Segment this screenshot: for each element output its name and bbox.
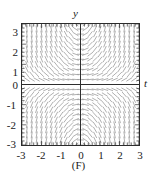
slope-mark [117, 72, 122, 77]
slope-mark [107, 97, 112, 102]
slope-mark [102, 67, 107, 72]
slope-mark [64, 122, 68, 128]
slope-mark [93, 107, 98, 112]
slope-mark [112, 92, 117, 97]
slope-mark [59, 57, 63, 62]
slope-mark [63, 107, 68, 112]
slope-mark [68, 127, 73, 132]
slope-mark [102, 97, 107, 102]
slope-mark [93, 122, 97, 128]
slope-mark [103, 62, 107, 67]
slope-mark [59, 62, 64, 67]
slope-mark [69, 26, 73, 32]
slope-mark [30, 72, 34, 77]
slope-mark [39, 72, 44, 77]
slope-mark [127, 72, 131, 77]
slope-mark [122, 92, 127, 97]
slope-mark [68, 122, 73, 127]
slope-mark [88, 142, 92, 145]
y-tick-label-neg-3: -3 [0, 139, 16, 150]
slope-mark [127, 92, 131, 97]
slope-mark [64, 52, 69, 57]
slope-mark [93, 52, 98, 57]
axis-line-group [22, 24, 139, 145]
slope-mark [93, 112, 98, 117]
slope-mark [93, 46, 97, 51]
slope-mark [44, 72, 49, 77]
slope-mark [69, 132, 73, 137]
slope-mark [54, 102, 58, 107]
slope-mark [54, 62, 58, 67]
y-tick-label-0: 0 [2, 80, 18, 91]
figure-caption: (F) [0, 160, 157, 171]
slope-mark [34, 92, 39, 97]
slope-mark [98, 62, 103, 67]
slope-mark [44, 92, 49, 97]
slope-mark [54, 97, 59, 102]
slope-mark [63, 57, 68, 62]
slope-mark [59, 107, 63, 112]
slope-mark [88, 31, 92, 36]
slope-mark [49, 97, 54, 102]
slope-mark [68, 37, 73, 42]
y-tick-label-1: 1 [2, 67, 18, 78]
plot-area [21, 23, 140, 146]
slope-mark [98, 57, 102, 62]
t-axis-label: t [144, 78, 147, 89]
slope-mark [30, 92, 34, 97]
slope-mark [88, 37, 93, 42]
slope-field-canvas [22, 24, 139, 145]
slope-mark [122, 72, 127, 77]
slope-mark [39, 92, 44, 97]
y-tick-label-neg-2: -2 [0, 120, 16, 131]
slope-mark [88, 24, 92, 27]
slope-mark [93, 57, 98, 62]
slope-mark [64, 117, 68, 122]
slope-mark [54, 67, 59, 72]
slope-mark [88, 47, 93, 52]
slope-mark [93, 117, 97, 122]
slope-mark [68, 47, 73, 52]
slope-mark [34, 72, 39, 77]
slope-mark [88, 26, 92, 32]
y-tick-label-neg-1: -1 [0, 100, 16, 111]
y-axis-label: y [73, 8, 78, 19]
slope-field-figure: y t 3 2 1 0 -1 -2 -3 -3 -2 -1 0 1 2 3 (F… [0, 0, 157, 184]
slope-mark [98, 107, 102, 112]
y-tick-label-3: 3 [2, 27, 18, 38]
slope-mark [93, 41, 97, 47]
y-tick-label-2: 2 [2, 47, 18, 58]
slope-mark [103, 102, 107, 107]
slope-mark [88, 122, 93, 127]
slope-mark [69, 24, 73, 27]
slope-mark [69, 137, 73, 143]
slope-mark [64, 112, 69, 117]
slope-mark [88, 127, 93, 132]
slope-mark [64, 41, 68, 47]
slope-mark [49, 67, 54, 72]
slope-mark [69, 142, 73, 145]
slope-mark [88, 132, 92, 137]
slope-mark [88, 118, 93, 123]
slope-mark [117, 92, 122, 97]
slope-mark [88, 137, 92, 143]
slope-mark [107, 67, 112, 72]
slope-mark [98, 102, 103, 107]
slope-mark [64, 46, 68, 51]
slope-mark [68, 118, 73, 123]
slope-mark [68, 42, 73, 47]
slope-mark [88, 42, 93, 47]
slope-mark [59, 102, 64, 107]
slope-mark [112, 72, 117, 77]
slope-mark [69, 31, 73, 36]
